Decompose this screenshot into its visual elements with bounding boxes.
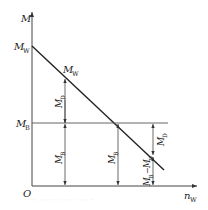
svg-text:B: B	[112, 151, 119, 156]
load-line	[32, 46, 164, 170]
svg-text:B: B	[148, 174, 154, 178]
svg-text:D: D	[148, 156, 154, 161]
svg-text:D: D	[161, 133, 168, 138]
svg-text:W: W	[72, 70, 79, 78]
svg-text:B: B	[25, 124, 30, 132]
arrow-md-left: M D	[54, 79, 66, 123]
mb-level-label: M B	[15, 118, 30, 132]
arrow-mb-middle: M B	[107, 124, 119, 185]
torque-diagram: M n W O M W M W M B M D M B	[0, 0, 208, 210]
arrow-md-right: M D	[153, 124, 168, 155]
arrow-mb-minus-md: M B − M D	[142, 156, 154, 188]
figure-caption: ··· ·· ·· · ·· ··· · ··· ··	[30, 196, 190, 204]
y-axis-label: M	[20, 13, 32, 24]
intercept-label: M W	[13, 41, 30, 55]
arrow-mb-left: M B	[54, 124, 66, 185]
svg-text:W: W	[190, 196, 197, 204]
svg-text:D: D	[59, 95, 66, 100]
svg-text:W: W	[23, 47, 30, 55]
svg-text:B: B	[59, 151, 66, 156]
